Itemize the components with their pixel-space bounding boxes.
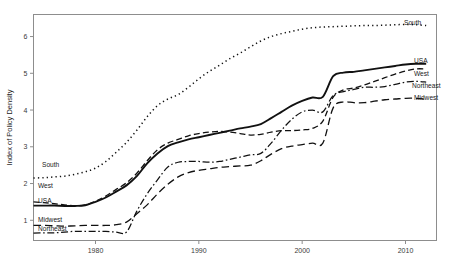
series-line-usa	[34, 64, 427, 206]
series-label-left-usa: USA	[38, 197, 52, 204]
series-label-right-west: West	[414, 70, 429, 77]
y-tick-label-4: 4	[24, 107, 28, 114]
x-tick-label-2010: 2010	[398, 247, 414, 254]
series-label-left-northeast: Northeast	[38, 225, 67, 232]
series-label-left-midwest: Midwest	[38, 216, 62, 223]
chart-canvas: 1980199020002010123456 SouthSouthUSAUSAW…	[0, 0, 453, 271]
y-tick-label-2: 2	[24, 180, 28, 187]
x-tick-label-1990: 1990	[191, 247, 207, 254]
series-label-left-south: South	[42, 161, 60, 168]
series-label-left-west: West	[38, 182, 53, 189]
series-label-right-usa: USA	[414, 57, 428, 64]
series-label-right-south: South	[404, 19, 422, 26]
policy-density-line-chart: 1980199020002010123456 SouthSouthUSAUSAW…	[0, 0, 453, 271]
y-axis-title-text: Index of Policy Density	[5, 89, 14, 165]
x-tick-label-2000: 2000	[294, 247, 310, 254]
axis-ticks	[30, 37, 406, 244]
series-lines	[34, 24, 427, 233]
y-tick-label-5: 5	[24, 70, 28, 77]
y-tick-label-3: 3	[24, 143, 28, 150]
series-label-right-northeast: Northeast	[412, 82, 441, 89]
y-axis-title: Index of Policy Density	[5, 89, 14, 165]
series-line-west	[34, 69, 427, 206]
series-line-south	[34, 24, 427, 178]
series-line-midwest	[34, 98, 427, 226]
series-line-northeast	[34, 81, 427, 233]
series-label-right-midwest: Midwest	[414, 94, 438, 101]
plot-border	[34, 15, 437, 241]
plot-frame	[34, 15, 437, 241]
x-tick-label-1980: 1980	[88, 247, 104, 254]
y-tick-label-6: 6	[24, 33, 28, 40]
y-tick-label-1: 1	[24, 217, 28, 224]
